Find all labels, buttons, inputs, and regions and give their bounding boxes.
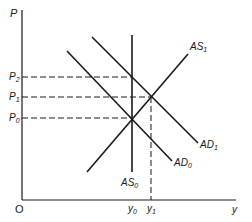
x-axis-label: y [231, 204, 238, 215]
as1-label: AS1 [189, 41, 207, 53]
ad1-label: AD1 [199, 139, 218, 151]
as-ad-diagram: P y O P2 P1 P0 y0 y1 AS1 AD1 AD0 AS0 [0, 0, 252, 222]
as1-curve [87, 54, 188, 172]
ad0-curve [67, 51, 172, 161]
p2-label: P2 [9, 71, 20, 83]
y-axis-label: P [10, 7, 18, 19]
p1-label: P1 [9, 91, 20, 103]
ad1-curve [92, 37, 198, 143]
as0-label: AS0 [120, 177, 138, 189]
y0-label: y0 [127, 203, 137, 215]
p0-label: P0 [9, 112, 20, 124]
ad0-label: AD0 [173, 157, 192, 169]
origin-label: O [15, 203, 24, 215]
y1-label: y1 [146, 203, 156, 215]
